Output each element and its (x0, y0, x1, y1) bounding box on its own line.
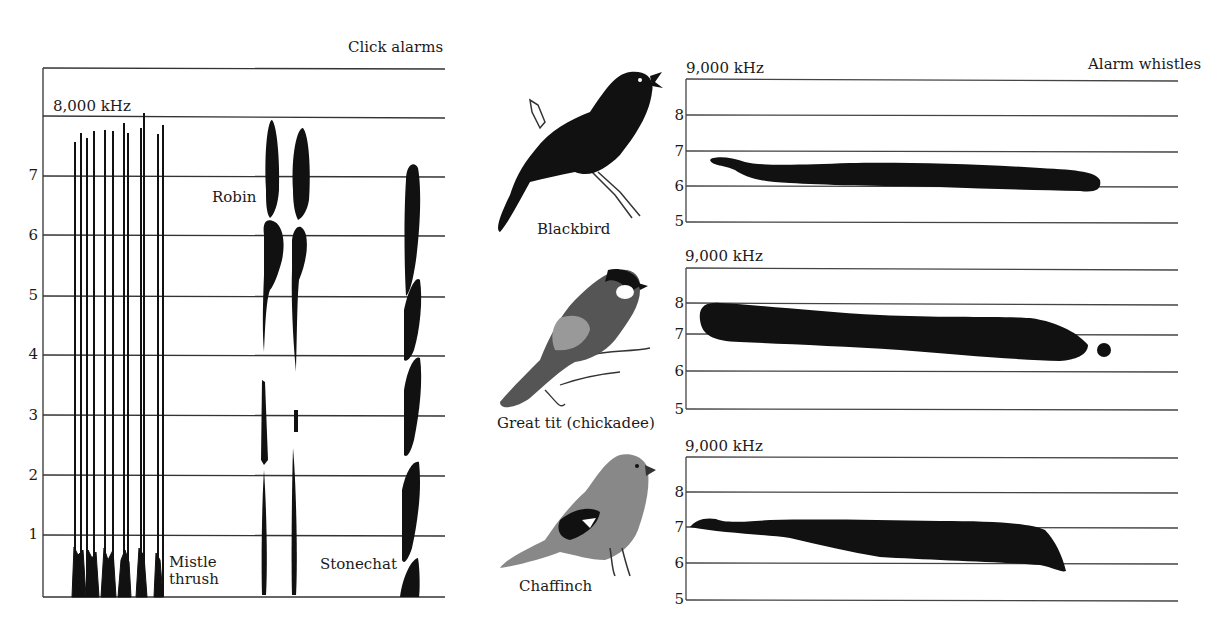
great-tit-label: Great tit (chickadee) (497, 414, 655, 432)
stonechat-label: Stonechat (320, 555, 397, 573)
y-tick-5: 5 (22, 286, 38, 304)
chaffinch-top-label: 9,000 kHz (685, 437, 763, 455)
y-tick-7: 7 (22, 166, 38, 184)
blackbird-label: Blackbird (537, 220, 610, 238)
mistle-thrush-label-2: thrush (169, 570, 219, 588)
chaffinch-tick-6: 6 (668, 554, 684, 572)
y-tick-3: 3 (22, 406, 38, 424)
figure-canvas (0, 0, 1212, 634)
blackbird-tick-8: 8 (668, 106, 684, 124)
chaffinch-tick-7: 7 (668, 518, 684, 536)
great-tit-illustration (500, 269, 650, 407)
chaffinch-label: Chaffinch (519, 577, 592, 595)
y-tick-2: 2 (22, 466, 38, 484)
blackbird-top-label: 9,000 kHz (686, 59, 764, 77)
alarm-whistles-title: Alarm whistles (1088, 55, 1201, 73)
chaffinch-tick-5: 5 (668, 590, 684, 608)
great-tit-whistle (700, 303, 1088, 361)
blackbird-tick-6: 6 (668, 177, 684, 195)
blackbird-tick-7: 7 (668, 142, 684, 160)
robin-clicks (261, 120, 310, 595)
blackbird-illustration (498, 72, 663, 232)
chaffinch-illustration (500, 454, 656, 576)
blackbird-tick-5: 5 (668, 212, 684, 230)
great-tit-top-label: 9,000 kHz (685, 247, 763, 265)
great-tit-tick-6: 6 (668, 362, 684, 380)
blackbird-grid (686, 79, 1178, 223)
click-alarms-top-label: 8,000 kHz (53, 97, 131, 115)
robin-label: Robin (212, 188, 256, 206)
great-tit-tick-7: 7 (668, 325, 684, 343)
click-alarms-grid (43, 68, 445, 597)
y-tick-6: 6 (22, 226, 38, 244)
great-tit-tick-8: 8 (668, 294, 684, 312)
chaffinch-tick-8: 8 (668, 483, 684, 501)
stonechat-clicks (400, 164, 421, 597)
y-tick-1: 1 (22, 525, 38, 543)
mistle-thrush-label-1: Mistle (169, 553, 217, 571)
y-tick-4: 4 (22, 345, 38, 363)
great-tit-tick-5: 5 (668, 400, 684, 418)
click-alarms-title: Click alarms (348, 38, 443, 56)
great-tit-dot (1097, 343, 1111, 357)
